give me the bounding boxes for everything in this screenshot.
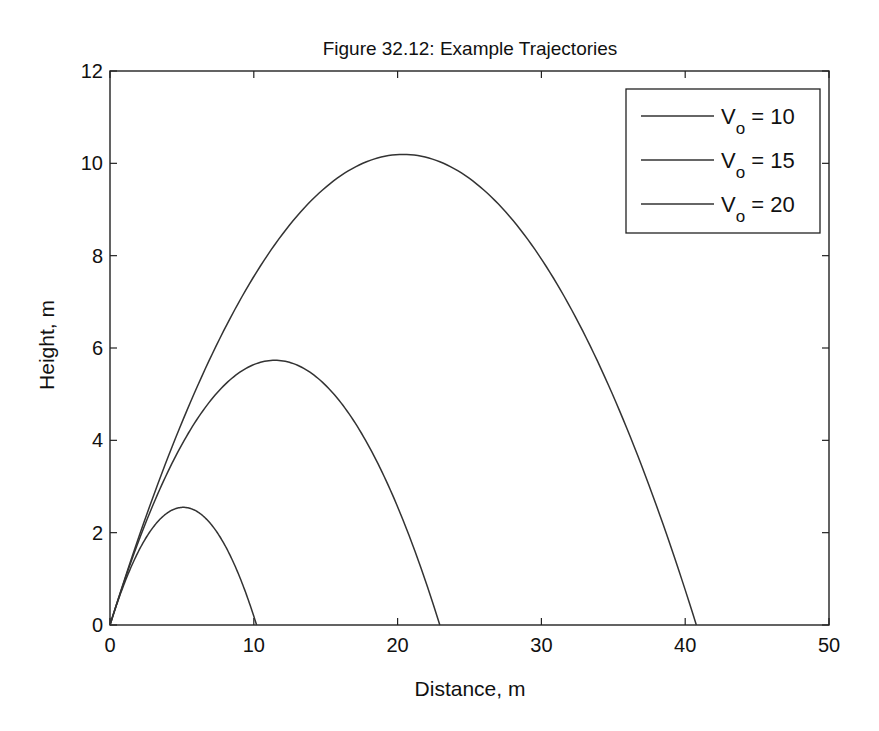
x-tick-label: 10	[243, 634, 265, 656]
x-tick-label: 20	[386, 634, 408, 656]
trajectory-figure: Figure 32.12: Example Trajectories 01020…	[0, 0, 879, 731]
y-tick-label: 6	[92, 337, 103, 359]
x-axis-label: Distance, m	[415, 677, 526, 700]
x-tick-labels: 01020304050	[104, 634, 840, 656]
y-tick-label: 0	[92, 614, 103, 636]
y-tick-label: 8	[92, 245, 103, 267]
x-tick-label: 0	[104, 634, 115, 656]
y-tick-label: 2	[92, 522, 103, 544]
chart-title: Figure 32.12: Example Trajectories	[323, 38, 618, 59]
y-tick-label: 4	[92, 429, 103, 451]
y-tick-label: 10	[81, 152, 103, 174]
x-tick-label: 50	[818, 634, 840, 656]
x-tick-label: 40	[674, 634, 696, 656]
x-tick-label: 30	[530, 634, 552, 656]
y-axis-label: Height, m	[35, 300, 58, 390]
legend: Vo = 10Vo = 15Vo = 20	[626, 89, 820, 233]
y-tick-label: 12	[81, 60, 103, 82]
y-tick-labels: 024681012	[81, 60, 103, 636]
